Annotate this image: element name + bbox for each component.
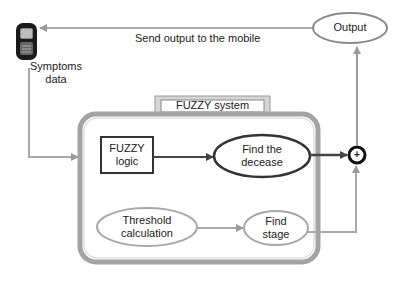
find-stage-line2: stage: [244, 228, 308, 241]
find-decease-label: Find the decease: [214, 143, 310, 169]
threshold-label: Threshold calculation: [97, 214, 197, 240]
fuzzy-logic-line1: FUZZY: [101, 142, 153, 155]
find-decease-line2: decease: [214, 156, 310, 169]
edge-find-stage-to-sum: [308, 166, 356, 232]
feedback-edge-label: Send output to the mobile: [135, 32, 257, 45]
mobile-phone-icon: [16, 23, 37, 60]
fuzzy-logic-label: FUZZY logic: [101, 142, 153, 168]
threshold-line2: calculation: [97, 227, 197, 240]
mobile-label-line2: data: [30, 73, 82, 86]
threshold-line1: Threshold: [97, 214, 197, 227]
mobile-label: Symptoms data: [30, 60, 82, 86]
find-stage-label: Find stage: [244, 215, 308, 241]
fuzzy-logic-line2: logic: [101, 155, 153, 168]
find-decease-line1: Find the: [214, 143, 310, 156]
system-title: FUZZY system: [161, 99, 264, 112]
mobile-label-line1: Symptoms: [30, 60, 82, 73]
sum-symbol: +: [351, 148, 363, 161]
output-label: Output: [313, 21, 387, 34]
find-stage-line1: Find: [244, 215, 308, 228]
